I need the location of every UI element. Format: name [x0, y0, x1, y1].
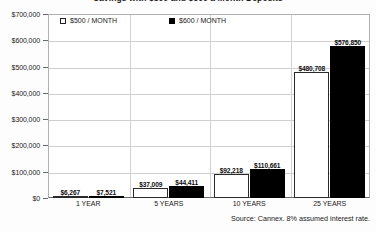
bar-value-label: $37,009	[139, 181, 162, 188]
y-tick-label: $700,000	[12, 11, 40, 18]
legend-item-series-a: $500 / MONTH	[60, 17, 117, 24]
bar-chart: Savings with $500 and $600 a Month Depos…	[0, 0, 376, 232]
y-tick-label: $400,000	[12, 89, 40, 96]
chart-legend: $500 / MONTH $600 / MONTH	[60, 17, 226, 24]
bar: $37,009	[133, 188, 168, 198]
chart-title: Savings with $500 and $600 a Month Depos…	[0, 0, 376, 3]
bar-group: $37,009$44,411	[129, 14, 210, 198]
bar: $110,661	[250, 169, 285, 198]
bar: $6,267	[53, 196, 88, 198]
x-tick-label: 25 YEARS	[313, 200, 346, 207]
x-axis: 1 YEAR5 YEARS10 YEARS25 YEARS	[48, 200, 370, 214]
bar-value-label: $480,708	[298, 65, 325, 72]
y-tick-label: $300,000	[12, 116, 40, 123]
legend-swatch-filled-square-icon	[169, 18, 175, 24]
bars-layer: $6,267$7,521$37,009$44,411$92,218$110,66…	[48, 14, 370, 198]
x-tick-label: 1 YEAR	[76, 200, 100, 207]
bar: $44,411	[169, 186, 204, 198]
bar-value-label: $6,267	[60, 189, 80, 196]
y-tick-label: $200,000	[12, 142, 40, 149]
bar-group: $92,218$110,661	[209, 14, 290, 198]
bar: $576,850	[330, 46, 365, 198]
bar-value-label: $92,218	[220, 167, 243, 174]
x-tick-label: 10 YEARS	[233, 200, 266, 207]
bar: $480,708	[294, 72, 329, 198]
bar-group: $480,708$576,850	[290, 14, 371, 198]
bar: $7,521	[89, 196, 124, 198]
y-tick-label: $600,000	[12, 37, 40, 44]
x-tick-label: 5 YEARS	[154, 200, 183, 207]
source-note: Source: Cannex. 8% assumed interest rate…	[231, 214, 370, 223]
bar: $92,218	[214, 174, 249, 198]
legend-label-series-a: $500 / MONTH	[70, 17, 117, 24]
y-tick-label: $0	[32, 195, 40, 202]
legend-item-series-b: $600 / MONTH	[169, 17, 226, 24]
bar-value-label: $7,521	[96, 189, 116, 196]
y-tick-label: $100,000	[12, 168, 40, 175]
bar-group: $6,267$7,521	[48, 14, 129, 198]
y-tick-mark	[43, 198, 48, 199]
y-tick-label: $500,000	[12, 63, 40, 70]
bar-value-label: $576,850	[334, 39, 361, 46]
legend-label-series-b: $600 / MONTH	[179, 17, 226, 24]
bar-value-label: $44,411	[175, 179, 198, 186]
legend-swatch-open-square-icon	[60, 18, 66, 24]
y-axis: $0$100,000$200,000$300,000$400,000$500,0…	[0, 14, 44, 198]
bar-value-label: $110,661	[254, 162, 280, 169]
